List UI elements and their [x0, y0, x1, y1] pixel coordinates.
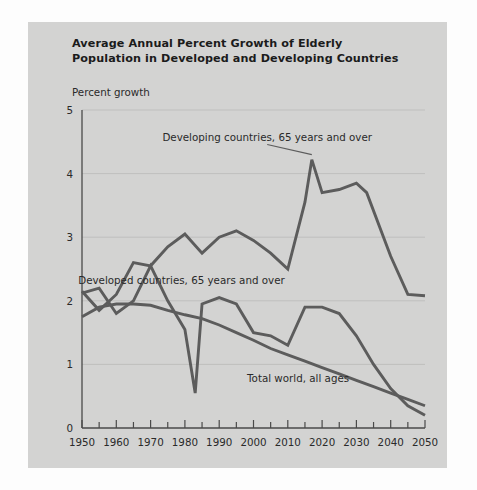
series-annotation-2: Total world, all ages: [246, 372, 349, 384]
series-annotation-1: Developed countries, 65 years and over: [78, 274, 285, 286]
x-tick-label-1950: 1950: [69, 436, 95, 448]
x-tick-label-2020: 2020: [309, 436, 335, 448]
x-tick-label-1990: 1990: [206, 436, 232, 448]
series-line-0: [82, 160, 425, 311]
x-tick-label-2010: 2010: [275, 436, 301, 448]
x-tick-label-1970: 1970: [137, 436, 163, 448]
series-annotation-0: Developing countries, 65 years and over: [162, 131, 372, 143]
series-leader-line-0: [267, 145, 312, 155]
y-axis: 012345: [66, 104, 82, 434]
x-tick-label-2040: 2040: [378, 436, 404, 448]
y-tick-label-5: 5: [66, 104, 73, 116]
figure-panel: Average Annual Percent Growth of Elderly…: [28, 22, 447, 468]
x-axis: 1950196019701980199020002010202020302040…: [69, 420, 438, 448]
series-line-2: [82, 304, 425, 406]
y-tick-label-0: 0: [66, 422, 73, 434]
x-tick-label-2000: 2000: [240, 436, 266, 448]
gridlines: [82, 110, 425, 364]
x-tick-label-2050: 2050: [412, 436, 438, 448]
y-tick-label-3: 3: [66, 231, 73, 243]
series-annotations: Developing countries, 65 years and overD…: [78, 131, 373, 385]
y-tick-label-4: 4: [66, 168, 73, 180]
x-tick-label-2030: 2030: [343, 436, 369, 448]
line-chart-plot: 012345 195019601970198019902000201020202…: [28, 22, 447, 468]
x-tick-label-1960: 1960: [103, 436, 129, 448]
x-tick-label-1980: 1980: [172, 436, 198, 448]
y-tick-label-1: 1: [66, 358, 73, 370]
y-tick-label-2: 2: [66, 295, 73, 307]
